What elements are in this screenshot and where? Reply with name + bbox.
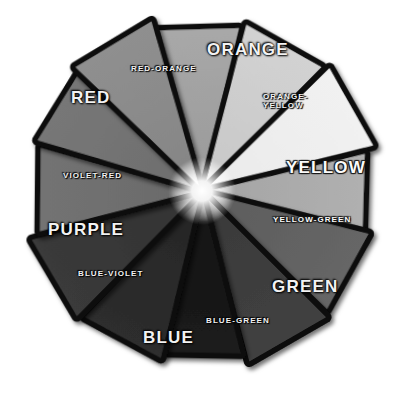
center-highlight [168, 157, 236, 225]
color-wheel-svg [0, 0, 405, 394]
color-wheel-figure: ORANGEORANGE- YELLOWYELLOWYELLOW-GREENGR… [0, 0, 405, 394]
